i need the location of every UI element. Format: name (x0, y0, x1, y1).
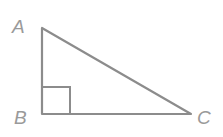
right-angle-marker (42, 87, 70, 114)
triangle-diagram: A B C (0, 0, 223, 137)
vertex-label-a: A (11, 16, 25, 37)
vertex-label-c: C (197, 107, 211, 128)
vertex-label-b: B (14, 107, 27, 128)
triangle-abc (42, 28, 191, 114)
